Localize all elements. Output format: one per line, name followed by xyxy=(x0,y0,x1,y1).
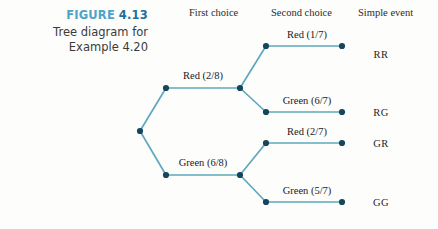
edge-label-second-red-red: Red (1/7) xyxy=(287,29,327,40)
node-root xyxy=(137,128,143,134)
node-red-split xyxy=(237,85,243,91)
node-gr-elbow xyxy=(263,140,269,146)
figure-container: FIGURE 4.13 Tree diagram for Example 4.2… xyxy=(0,0,438,229)
edge-green-to-red xyxy=(240,143,266,175)
edge-red-to-green xyxy=(240,88,266,112)
edge-label-first-red: Red (2/8) xyxy=(183,70,223,81)
node-gg-terminal xyxy=(339,199,345,205)
node-rg-terminal xyxy=(339,109,345,115)
node-green-elbow xyxy=(163,172,169,178)
edge-label-second-green-red: Red (2/7) xyxy=(287,126,327,137)
simple-event-gr: GR xyxy=(373,138,388,149)
edge-green-to-green xyxy=(240,175,266,202)
edge-red-to-red xyxy=(240,46,266,88)
edge-label-second-red-green: Green (6/7) xyxy=(283,95,332,106)
node-rr-terminal xyxy=(339,43,345,49)
node-green-split xyxy=(237,172,243,178)
simple-event-rg: RG xyxy=(373,107,388,118)
edge-label-first-green: Green (6/8) xyxy=(179,157,228,168)
edge-label-second-green-green: Green (5/7) xyxy=(283,185,332,196)
node-rr-elbow xyxy=(263,43,269,49)
simple-event-gg: GG xyxy=(373,197,389,208)
node-rg-elbow xyxy=(263,109,269,115)
simple-event-rr: RR xyxy=(374,49,389,60)
edge-root-to-red xyxy=(140,88,166,131)
tree-diagram xyxy=(0,0,438,229)
node-red-elbow xyxy=(163,85,169,91)
edge-root-to-green xyxy=(140,131,166,175)
node-gr-terminal xyxy=(339,140,345,146)
node-gg-elbow xyxy=(263,199,269,205)
